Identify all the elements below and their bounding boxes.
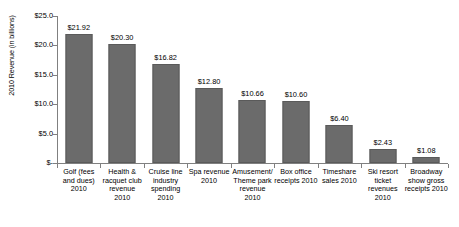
bar-value-label: $12.80 xyxy=(198,78,221,86)
y-tick-mark xyxy=(53,134,57,135)
x-tick-mark xyxy=(57,164,58,168)
x-tick-mark xyxy=(448,164,449,168)
bar[interactable] xyxy=(152,64,179,163)
x-category-label: Amusement/ Theme park revenue 2010 xyxy=(231,168,274,202)
y-axis-tick-labels: $25.0$20.0$15.0$10.0$5.0$- xyxy=(13,0,53,227)
bar[interactable] xyxy=(239,100,266,163)
bar-group[interactable]: $10.66 xyxy=(231,0,274,164)
bar-group[interactable]: $20.30 xyxy=(100,0,143,164)
x-category-label: Box office receipts 2010 xyxy=(274,168,317,185)
y-tick-label: $- xyxy=(15,159,53,167)
x-tick-mark xyxy=(274,164,275,168)
bar-value-label: $10.66 xyxy=(241,90,264,98)
x-tick-mark xyxy=(318,164,319,168)
bar-value-label: $10.60 xyxy=(285,91,308,99)
bar-value-label: $21.92 xyxy=(67,24,90,32)
x-tick-mark xyxy=(100,164,101,168)
x-tick-mark xyxy=(405,164,406,168)
bar-group[interactable]: $21.92 xyxy=(57,0,100,164)
x-category-label: Health & racquet club revenue 2010 xyxy=(100,168,143,202)
bar[interactable] xyxy=(413,157,440,163)
x-tick-mark xyxy=(144,164,145,168)
bar-group[interactable]: $16.82 xyxy=(144,0,187,164)
x-category-label: Broadway show gross receipts 2010 xyxy=(405,168,448,194)
bar-chart: 2010 Revenue (in billions) $25.0$20.0$15… xyxy=(0,0,459,227)
bar-value-label: $20.30 xyxy=(111,34,134,42)
x-category-label: Golf (fees and dues) 2010 xyxy=(57,168,100,194)
bar-group[interactable]: $1.08 xyxy=(405,0,448,164)
y-tick-mark xyxy=(53,16,57,17)
x-category-label: Cruise line industry spending 2010 xyxy=(144,168,187,202)
bar-value-label: $2.43 xyxy=(374,139,393,147)
y-tick-label: $5.0 xyxy=(15,130,53,138)
bar-group[interactable]: $6.40 xyxy=(318,0,361,164)
x-tick-mark xyxy=(187,164,188,168)
y-tick-label: $25.0 xyxy=(15,12,53,20)
bar-group[interactable]: $12.80 xyxy=(187,0,230,164)
x-axis-category-labels: Golf (fees and dues) 2010Health & racque… xyxy=(57,168,448,224)
y-tick-label: $10.0 xyxy=(15,100,53,108)
plot-area: $21.92$20.30$16.82$12.80$10.66$10.60$6.4… xyxy=(57,0,448,164)
x-category-label: Timeshare sales 2010 xyxy=(318,168,361,185)
y-tick-mark xyxy=(53,104,57,105)
y-tick-mark xyxy=(53,45,57,46)
y-tick-mark xyxy=(53,75,57,76)
bar-group[interactable]: $2.43 xyxy=(361,0,404,164)
x-category-label: Spa revenue 2010 xyxy=(187,168,230,185)
bar-value-label: $6.40 xyxy=(330,115,349,123)
bar[interactable] xyxy=(326,125,353,163)
bar[interactable] xyxy=(282,101,309,163)
bar[interactable] xyxy=(369,149,396,163)
y-tick-label: $15.0 xyxy=(15,71,53,79)
bar-value-label: $16.82 xyxy=(154,54,177,62)
x-category-label: Ski resort ticket revenues 2010 xyxy=(361,168,404,202)
x-tick-mark xyxy=(231,164,232,168)
bar[interactable] xyxy=(109,44,136,163)
x-tick-mark xyxy=(361,164,362,168)
bar-group[interactable]: $10.60 xyxy=(274,0,317,164)
y-tick-label: $20.0 xyxy=(15,41,53,49)
bar-value-label: $1.08 xyxy=(417,147,436,155)
bar[interactable] xyxy=(65,34,92,163)
bar[interactable] xyxy=(196,88,223,163)
